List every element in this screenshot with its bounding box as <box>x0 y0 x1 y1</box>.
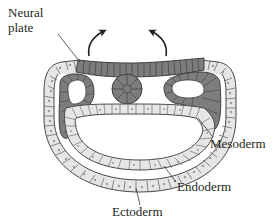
neural-plate-label-line2: plate <box>8 20 33 35</box>
notochord <box>112 74 142 104</box>
embryo-illustration <box>0 0 279 222</box>
left-fold-arrow-icon <box>89 31 104 56</box>
right-fold-arrow-icon <box>151 31 166 56</box>
neural-plate-leader-line <box>58 34 80 62</box>
mesoderm-label: Mesoderm <box>210 136 266 151</box>
endoderm-label: Endoderm <box>177 179 231 194</box>
ectoderm-label: Ectoderm <box>112 204 163 219</box>
embryo-diagram: Neural plate Mesoderm Endoderm Ectoderm <box>0 0 279 222</box>
neural-plate-label-line1: Neural <box>8 5 43 20</box>
